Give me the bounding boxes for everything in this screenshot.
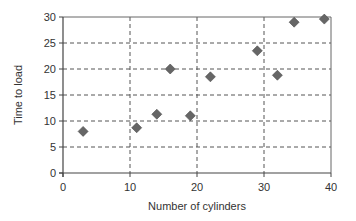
data-point-diamond — [205, 72, 215, 82]
x-axis-title: Number of cylinders — [148, 200, 246, 212]
data-point-diamond — [319, 14, 329, 24]
x-tick-label: 30 — [258, 181, 270, 193]
y-tick-label: 30 — [44, 11, 56, 23]
data-point-diamond — [78, 126, 88, 136]
x-tick-label: 0 — [60, 181, 66, 193]
y-tick-label: 10 — [44, 115, 56, 127]
x-tick-label: 40 — [325, 181, 337, 193]
axes — [59, 17, 331, 177]
data-points — [78, 14, 329, 136]
x-tick-label: 10 — [124, 181, 136, 193]
y-tick-label: 25 — [44, 37, 56, 49]
gridlines — [63, 17, 331, 173]
y-tick-label: 0 — [50, 167, 56, 179]
y-axis-ticks: 051015202530 — [44, 11, 63, 179]
data-point-diamond — [185, 111, 195, 121]
data-point-diamond — [289, 17, 299, 27]
scatter-chart: 010203040 051015202530 Number of cylinde… — [0, 0, 356, 221]
x-axis-ticks: 010203040 — [60, 173, 337, 193]
data-point-diamond — [165, 64, 175, 74]
data-point-diamond — [152, 109, 162, 119]
y-tick-label: 20 — [44, 63, 56, 75]
x-tick-label: 20 — [191, 181, 203, 193]
data-point-diamond — [132, 123, 142, 133]
y-tick-label: 5 — [50, 141, 56, 153]
y-axis-title: Time to load — [12, 65, 24, 125]
data-point-diamond — [252, 46, 262, 56]
data-point-diamond — [272, 70, 282, 80]
y-tick-label: 15 — [44, 89, 56, 101]
